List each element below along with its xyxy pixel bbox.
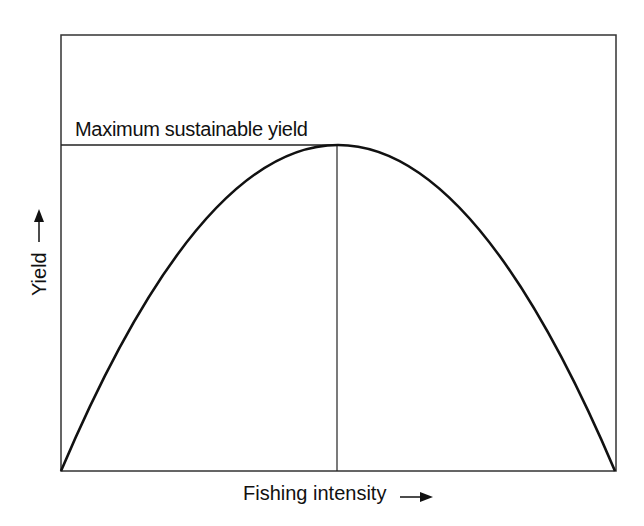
x-axis-label: Fishing intensity xyxy=(243,482,386,505)
yield-curve xyxy=(61,145,615,471)
plot-frame xyxy=(61,35,616,471)
chart-canvas xyxy=(0,0,644,526)
msy-label: Maximum sustainable yield xyxy=(75,118,308,141)
x-arrow-icon xyxy=(400,492,433,502)
y-arrow-icon xyxy=(34,209,44,242)
y-axis-label: Yield xyxy=(28,252,51,296)
